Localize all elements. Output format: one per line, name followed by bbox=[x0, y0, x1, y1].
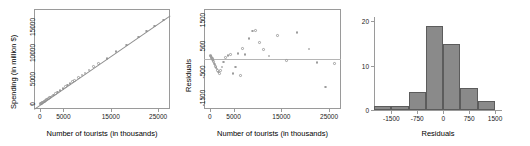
data-point bbox=[237, 52, 240, 55]
x-tick-label: 0 bbox=[441, 115, 445, 122]
x-tick-label: 15000 bbox=[102, 113, 120, 120]
y-tick-label: 0 bbox=[29, 103, 36, 107]
x-tick-label: 25000 bbox=[149, 113, 167, 120]
panel-spending-vs-tourists: 050001500025000 050001000015000 Number o… bbox=[0, 0, 178, 146]
y-tick-label: 1500 bbox=[199, 12, 206, 26]
panel-residual-histogram: -1500-75007501500 01020 Residuals bbox=[354, 0, 530, 146]
x-tick-label: 0 bbox=[38, 113, 42, 120]
y-tick-label: 0 bbox=[365, 107, 369, 114]
y-tick bbox=[371, 21, 374, 22]
x-tick bbox=[234, 109, 235, 112]
data-point bbox=[333, 62, 336, 65]
data-point bbox=[218, 72, 221, 75]
x-tick bbox=[417, 111, 418, 114]
x-tick-label: 5000 bbox=[226, 113, 240, 120]
data-point bbox=[229, 53, 232, 56]
x-tick bbox=[210, 109, 211, 112]
histogram-bar bbox=[443, 44, 460, 110]
histogram-bar bbox=[426, 26, 443, 110]
y-tick-label: -1500 bbox=[199, 90, 206, 107]
y-tick-label: 15000 bbox=[29, 18, 36, 36]
data-point bbox=[241, 47, 244, 50]
x-tick bbox=[495, 111, 496, 114]
data-point bbox=[248, 37, 251, 40]
x-tick-label: 0 bbox=[208, 113, 212, 120]
x-tick bbox=[40, 109, 41, 112]
data-point bbox=[285, 59, 288, 62]
y-tick bbox=[371, 110, 374, 111]
y-tick-label: 5000 bbox=[29, 71, 36, 85]
histogram-bar bbox=[391, 106, 408, 110]
x-tick bbox=[63, 109, 64, 112]
histogram-bar bbox=[409, 92, 426, 110]
x-tick-label: -1500 bbox=[383, 115, 400, 122]
histogram-bar bbox=[374, 106, 391, 110]
data-point bbox=[258, 41, 261, 44]
x-tick bbox=[111, 109, 112, 112]
data-point bbox=[219, 69, 222, 72]
x-axis-label: Number of tourists (in thousands) bbox=[34, 129, 170, 138]
x-tick bbox=[281, 109, 282, 112]
x-axis-label: Number of tourists (in thousands) bbox=[204, 129, 341, 138]
y-tick bbox=[371, 66, 374, 67]
y-tick-label: 20 bbox=[362, 18, 369, 25]
y-tick-label: 10000 bbox=[29, 44, 36, 62]
y-tick-label: -500 bbox=[199, 66, 206, 79]
x-tick-label: 15000 bbox=[272, 113, 290, 120]
y-axis-label: Residuals bbox=[184, 59, 193, 92]
x-tick bbox=[469, 111, 470, 114]
x-tick-label: 750 bbox=[464, 115, 475, 122]
histogram-bar bbox=[460, 88, 477, 110]
data-point bbox=[254, 29, 257, 32]
data-point bbox=[234, 66, 237, 69]
x-tick-label: 5000 bbox=[56, 113, 70, 120]
y-tick-label: 500 bbox=[199, 40, 206, 51]
y-axis-label: Spending (in million $) bbox=[9, 35, 18, 109]
zero-reference-line bbox=[204, 59, 341, 60]
x-tick-label: -750 bbox=[411, 115, 424, 122]
data-point bbox=[239, 74, 242, 77]
x-tick bbox=[443, 111, 444, 114]
x-axis-label: Residuals bbox=[374, 129, 502, 138]
y-axis-line bbox=[374, 17, 375, 110]
histogram-bar bbox=[478, 101, 495, 110]
x-tick bbox=[329, 109, 330, 112]
x-tick bbox=[158, 109, 159, 112]
y-tick-label: 10 bbox=[362, 62, 369, 69]
x-axis-line bbox=[374, 110, 502, 111]
x-tick-label: 25000 bbox=[320, 113, 338, 120]
x-tick bbox=[391, 111, 392, 114]
data-point bbox=[276, 34, 279, 37]
multi-panel-figure: 050001500025000 050001000015000 Number o… bbox=[0, 0, 530, 146]
panel-residuals-vs-tourists: 050001500025000 -1500-5005001500 Number … bbox=[178, 0, 354, 146]
x-tick-label: 1500 bbox=[488, 115, 502, 122]
